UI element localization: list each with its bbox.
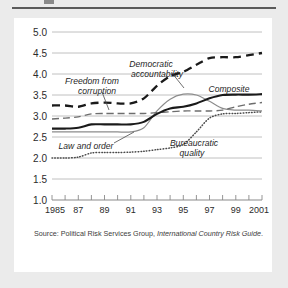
annotation-composite: Composite <box>208 84 249 94</box>
xtick-label-97: 97 <box>204 205 214 215</box>
annotation-law-and-order: Law and order <box>59 141 115 151</box>
series-bureaucratic-quality <box>52 112 262 158</box>
figure-root: 5.0 4.5 4.0 3.5 3.0 2.5 2.0 1.5 1.0 1985… <box>0 0 288 288</box>
xtick-label-95: 95 <box>178 205 188 215</box>
annotation-democratic-line2: accountability <box>131 69 184 79</box>
annotation-freedom-line2: corruption <box>78 86 116 96</box>
xtick-label-87: 87 <box>73 205 83 215</box>
header-divider <box>12 7 276 9</box>
xtick-label-93: 93 <box>152 205 162 215</box>
annotation-freedom-line1: Freedom from <box>65 76 119 86</box>
source-caption: Source: Political Risk Services Group, I… <box>34 228 264 239</box>
xtick-label-91: 91 <box>126 205 136 215</box>
ytick-label-4-0: 4.0 <box>33 69 47 80</box>
x-tick-marks <box>52 195 262 200</box>
xtick-label-2001: 2001 <box>249 205 269 215</box>
ytick-label-2-5: 2.5 <box>33 132 47 143</box>
xtick-label-1985: 1985 <box>45 205 65 215</box>
ytick-label-2-0: 2.0 <box>33 153 47 164</box>
annotation-democratic-line1: Democratic <box>129 59 173 69</box>
xtick-label-89: 89 <box>99 205 109 215</box>
annotation-bureaucratic-line1: Bureaucratic <box>170 138 219 148</box>
source-title: International Country Risk Guide <box>157 229 261 238</box>
y-axis-labels: 5.0 4.5 4.0 3.5 3.0 2.5 2.0 1.5 1.0 <box>33 27 47 206</box>
ytick-label-5-0: 5.0 <box>33 27 47 38</box>
ytick-label-4-5: 4.5 <box>33 48 47 59</box>
line-chart-svg: 5.0 4.5 4.0 3.5 3.0 2.5 2.0 1.5 1.0 1985… <box>14 18 272 218</box>
annotation-bureaucratic-line2: quality <box>180 148 206 158</box>
xtick-label-99: 99 <box>231 205 241 215</box>
figure-card: 5.0 4.5 4.0 3.5 3.0 2.5 2.0 1.5 1.0 1985… <box>14 18 272 272</box>
chart-area: 5.0 4.5 4.0 3.5 3.0 2.5 2.0 1.5 1.0 1985… <box>14 18 272 218</box>
ytick-label-3-0: 3.0 <box>33 111 47 122</box>
source-suffix: . <box>261 229 263 238</box>
x-axis-labels: 1985 87 89 91 93 95 97 99 2001 <box>45 205 269 215</box>
cropped-title-descender <box>44 0 54 4</box>
source-prefix: Source: Political Risk Services Group, <box>34 229 155 238</box>
ytick-label-3-5: 3.5 <box>33 90 47 101</box>
leader-law-and-order <box>114 132 134 143</box>
ytick-label-1-5: 1.5 <box>33 174 47 185</box>
